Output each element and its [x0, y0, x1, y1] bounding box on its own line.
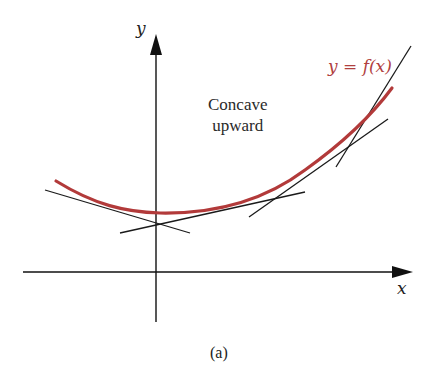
tangent-line-3: [249, 119, 388, 217]
curve-label: y = f(x): [328, 58, 392, 75]
annotation-line-1: Concave: [208, 94, 267, 115]
concavity-annotation: Concave upward: [208, 94, 267, 136]
x-axis-label: x: [397, 280, 407, 297]
y-axis-arrow-icon: [150, 34, 162, 55]
x-axis-arrow-icon: [392, 266, 413, 278]
y-axis-label: y: [136, 20, 146, 37]
figure-caption: (a): [210, 345, 228, 361]
annotation-line-2: upward: [208, 115, 267, 136]
